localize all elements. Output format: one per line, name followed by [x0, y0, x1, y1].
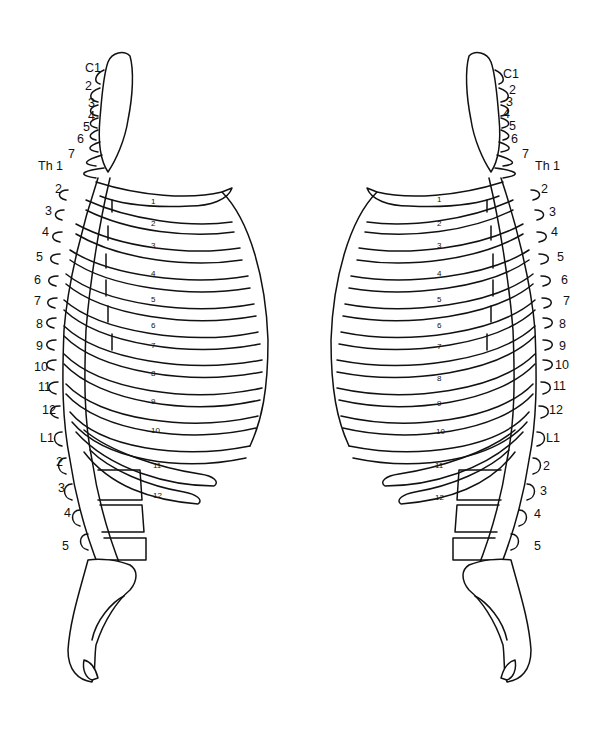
right-rib-9: 9	[437, 400, 441, 408]
right-label-l5: 5	[534, 540, 541, 553]
left-label-th9: 9	[36, 340, 43, 353]
left-rib-8: 8	[151, 370, 155, 378]
left-label-th12: 12	[42, 404, 56, 417]
right-rib-4: 4	[437, 270, 441, 278]
left-label-c1: C1	[85, 62, 101, 75]
right-rib-7: 7	[437, 343, 441, 351]
left-label-th8: 8	[36, 318, 43, 331]
right-rib-1: 1	[437, 196, 441, 204]
right-label-th7: 7	[563, 295, 570, 308]
left-label-c6: 6	[77, 133, 84, 146]
right-label-l1: L1	[546, 432, 560, 445]
right-label-th2: 2	[541, 183, 548, 196]
right-label-th11: 11	[553, 380, 566, 393]
left-label-th10: 10	[34, 361, 48, 374]
left-label-l4: 4	[64, 507, 71, 520]
right-rib-12: 12	[435, 494, 444, 502]
left-rib-4: 4	[151, 270, 155, 278]
left-label-l2: 2	[56, 456, 63, 469]
left-rib-1: 1	[151, 198, 155, 206]
left-label-th11: 11	[38, 381, 51, 394]
left-rib-10: 10	[151, 427, 160, 435]
left-rib-2: 2	[151, 220, 155, 228]
left-label-th1: Th 1	[38, 160, 63, 173]
right-rib-3: 3	[437, 242, 441, 250]
spine-rib-diagram: C1 2 3 4 5 6 7 Th 1 2 3 4 5 6 7 8 9 10 1…	[0, 0, 599, 740]
left-label-c7: 7	[68, 148, 75, 161]
right-label-th6: 6	[561, 274, 568, 287]
right-label-th12: 12	[549, 404, 563, 417]
right-rib-6: 6	[437, 322, 441, 330]
right-rib-11: 11	[435, 462, 443, 470]
left-label-th3: 3	[45, 205, 52, 218]
left-rib-11: 11	[153, 462, 161, 470]
right-rib-2: 2	[437, 220, 441, 228]
right-label-c6: 6	[511, 133, 518, 146]
left-label-th7: 7	[34, 295, 41, 308]
right-label-l2: 2	[543, 460, 550, 473]
right-rib-5: 5	[437, 296, 441, 304]
right-label-l3: 3	[540, 485, 547, 498]
right-label-c5: 5	[509, 120, 516, 133]
left-label-th4: 4	[42, 226, 49, 239]
left-label-l1: L1	[40, 432, 54, 445]
right-label-th10: 10	[555, 359, 569, 372]
left-rib-9: 9	[151, 398, 155, 406]
right-label-th9: 9	[559, 340, 566, 353]
right-label-c1: C1	[503, 68, 519, 81]
right-rib-8: 8	[437, 375, 441, 383]
left-label-c3: 3	[88, 97, 95, 110]
left-label-l3: 3	[58, 482, 65, 495]
left-rib-7: 7	[151, 342, 155, 350]
right-rib-10: 10	[436, 428, 445, 436]
left-rib-5: 5	[151, 296, 155, 304]
left-rib-12: 12	[153, 492, 162, 500]
left-label-l5: 5	[62, 540, 69, 553]
left-label-th6: 6	[34, 274, 41, 287]
right-label-th5: 5	[557, 251, 564, 264]
right-label-th8: 8	[559, 318, 566, 331]
left-label-th5: 5	[36, 251, 43, 264]
right-label-th1: Th 1	[535, 160, 560, 173]
right-label-th3: 3	[549, 206, 556, 219]
left-label-c2: 2	[85, 80, 92, 93]
right-label-c7: 7	[522, 148, 529, 161]
left-rib-6: 6	[151, 322, 155, 330]
left-rib-3: 3	[151, 242, 155, 250]
left-label-th2: 2	[55, 183, 62, 196]
right-label-th4: 4	[551, 226, 558, 239]
left-label-c5: 5	[83, 121, 90, 134]
right-label-l4: 4	[534, 508, 541, 521]
